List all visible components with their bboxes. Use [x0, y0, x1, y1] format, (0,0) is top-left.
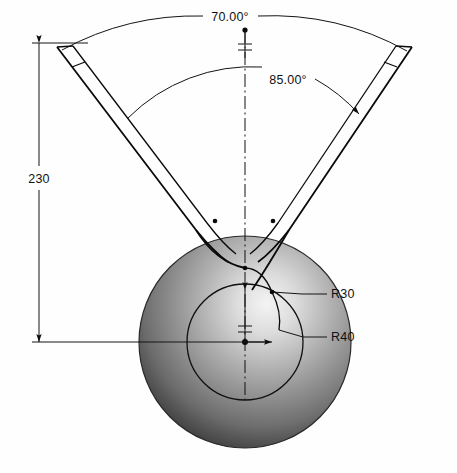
radius-outer-label: R30: [331, 287, 355, 301]
angle-outer-label: 70.00°: [211, 10, 248, 24]
angle-inner-label: 85.00°: [269, 73, 306, 87]
inner-angle-dimension: 85.00°: [128, 67, 359, 118]
radius-inner-label: R40: [331, 330, 355, 344]
left-arm: [57, 46, 236, 262]
top-construction-point: [238, 27, 252, 58]
technical-drawing-canvas: 70.00° 85.00° 230 R30: [0, 0, 457, 473]
height-label: 230: [28, 172, 49, 186]
outer-angle-dimension: 70.00°: [62, 10, 407, 51]
